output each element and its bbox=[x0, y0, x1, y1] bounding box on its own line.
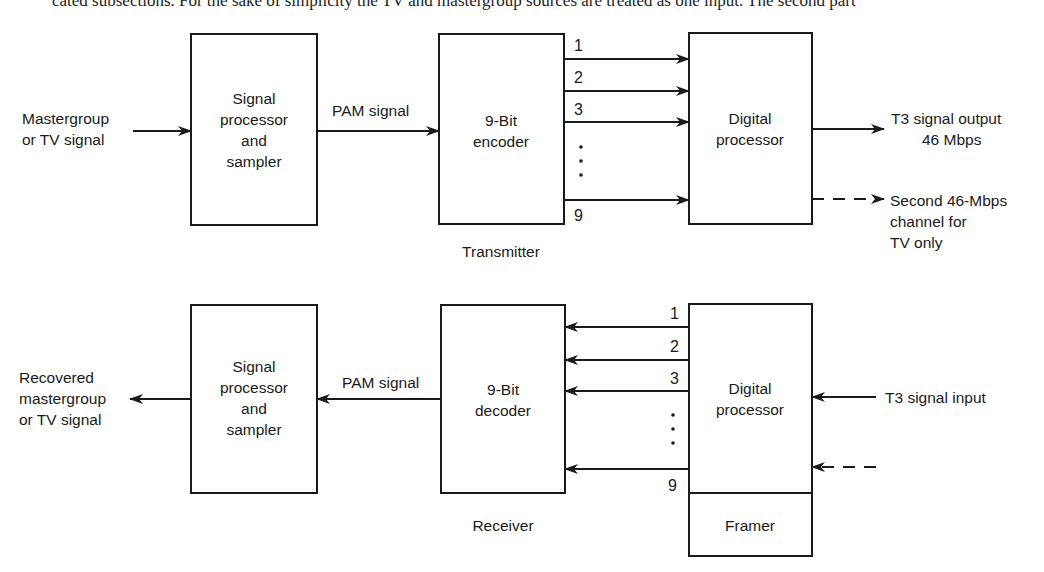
ellipsis-dot bbox=[579, 159, 583, 163]
tx-second-channel-label: Second 46-Mbps bbox=[890, 192, 1007, 209]
tx-pam-label: PAM signal bbox=[332, 102, 409, 119]
tx-output-label: 46 Mbps bbox=[922, 131, 982, 148]
rx-decoder-text: decoder bbox=[475, 402, 531, 419]
rx-bit-label: 3 bbox=[670, 370, 679, 387]
rx-digital-text: Digital bbox=[728, 380, 771, 397]
tx-input-label-line2: or TV signal bbox=[22, 131, 104, 148]
rx-output-label: mastergroup bbox=[19, 390, 106, 407]
rx-bit-label: 1 bbox=[670, 305, 679, 322]
rx-sampler-text: processor bbox=[220, 379, 288, 396]
tx-bit-label: 2 bbox=[574, 69, 583, 86]
rx-bit-label: 2 bbox=[670, 338, 679, 355]
tx-digital-text: Digital bbox=[728, 110, 771, 127]
tx-second-channel-label: TV only bbox=[890, 234, 943, 251]
transmitter-section-label: Transmitter bbox=[462, 243, 540, 260]
rx-sampler-text: sampler bbox=[226, 421, 281, 438]
tx-bit-label: 3 bbox=[574, 101, 583, 118]
ellipsis-dot bbox=[671, 427, 675, 431]
rx-sampler-box bbox=[191, 305, 317, 493]
ellipsis-dot bbox=[579, 145, 583, 149]
rx-digital-text: processor bbox=[716, 401, 784, 418]
rx-bit-label: 9 bbox=[668, 477, 677, 494]
clipped-caption-line: cated subsections. For the sake of simpl… bbox=[52, 0, 856, 10]
ellipsis-dot bbox=[671, 441, 675, 445]
tx-digital-processor-box bbox=[689, 33, 812, 224]
tx-encoder-text: encoder bbox=[473, 133, 529, 150]
tx-digital-text: processor bbox=[716, 131, 784, 148]
tx-second-channel-label: channel for bbox=[890, 213, 967, 230]
rx-output-label: or TV signal bbox=[19, 411, 101, 428]
tx-sampler-text: processor bbox=[220, 111, 288, 128]
tx-sampler-text: Signal bbox=[232, 90, 275, 107]
tx-input-label-line1: Mastergroup bbox=[22, 110, 109, 127]
tx-encoder-box bbox=[439, 34, 564, 224]
rx-decoder-text: 9-Bit bbox=[487, 381, 520, 398]
tx-encoder-text: 9-Bit bbox=[485, 112, 518, 129]
rx-sampler-text: Signal bbox=[232, 358, 275, 375]
ellipsis-dot bbox=[671, 413, 675, 417]
tx-bit-label: 9 bbox=[574, 207, 583, 224]
ellipsis-dot bbox=[579, 173, 583, 177]
transmitter-diagram: Mastergroup or TV signal Signal processo… bbox=[22, 33, 1007, 260]
rx-output-label: Recovered bbox=[19, 369, 94, 386]
tx-sampler-text: and bbox=[241, 132, 267, 149]
receiver-diagram: Recovered mastergroup or TV signal Signa… bbox=[19, 304, 987, 556]
rx-pam-label: PAM signal bbox=[342, 374, 419, 391]
diagram-canvas: cated subsections. For the sake of simpl… bbox=[0, 0, 1044, 572]
rx-sampler-text: and bbox=[241, 400, 267, 417]
tx-sampler-box bbox=[191, 34, 317, 225]
receiver-section-label: Receiver bbox=[472, 517, 533, 534]
tx-output-label: T3 signal output bbox=[891, 110, 1002, 127]
rx-t3-input-label: T3 signal input bbox=[885, 389, 987, 406]
framer-label: Framer bbox=[725, 517, 775, 534]
tx-bit-label: 1 bbox=[574, 37, 583, 54]
tx-sampler-text: sampler bbox=[226, 153, 281, 170]
rx-decoder-box bbox=[441, 305, 565, 493]
